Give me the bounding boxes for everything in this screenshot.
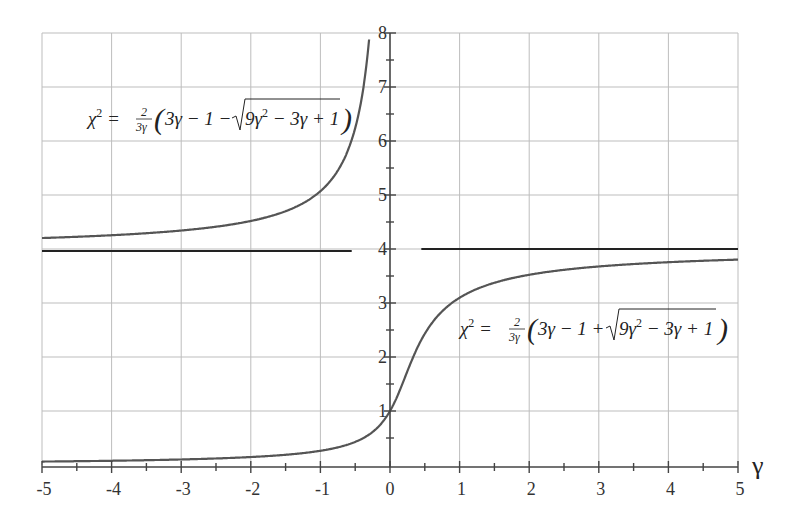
y-tick-label: 5: [378, 185, 387, 205]
svg-text:9γ2 − 3γ + 1: 9γ2 − 3γ + 1: [619, 316, 713, 339]
svg-text:χ2=: χ2=: [458, 316, 491, 339]
x-tick-label: -2: [245, 479, 260, 499]
chart-canvas: -5-4-3-2-1012345 12345678 γ χ2= 2 3γ ( 3…: [0, 0, 800, 525]
x-tick-label: -1: [315, 479, 330, 499]
y-tick-label: 4: [378, 239, 387, 259]
x-tick-label: -5: [37, 479, 52, 499]
x-tick-label: 2: [527, 479, 536, 499]
y-tick-labels: 12345678: [378, 23, 387, 421]
x-tick-label: 0: [386, 479, 395, 499]
x-tick-label: 1: [457, 479, 466, 499]
svg-text:2: 2: [514, 315, 520, 329]
svg-text:): ): [716, 312, 728, 346]
svg-text:3γ − 1 −: 3γ − 1 −: [164, 108, 231, 129]
svg-text:): ): [340, 102, 352, 136]
y-tick-label: 3: [378, 293, 387, 313]
y-tick-label: 8: [378, 23, 387, 43]
x-tick-labels: -5-4-3-2-1012345: [37, 479, 745, 499]
x-axis-label: γ: [751, 451, 764, 480]
x-tick-label: -3: [176, 479, 191, 499]
svg-text:9γ2 − 3γ + 1: 9γ2 − 3γ + 1: [245, 106, 339, 129]
svg-text:3γ − 1 +: 3γ − 1 +: [537, 318, 604, 339]
x-tick-label: -4: [106, 479, 121, 499]
svg-text:2: 2: [141, 105, 147, 119]
y-tick-label: 2: [378, 347, 387, 367]
formula-lower: χ2= 2 3γ ( 3γ − 1 + 9γ2 − 3γ + 1 ): [458, 309, 728, 346]
x-tick-label: 5: [736, 479, 745, 499]
y-tick-label: 7: [378, 77, 387, 97]
x-tick-label: 4: [666, 479, 675, 499]
y-tick-label: 6: [378, 131, 387, 151]
svg-text:χ2=: χ2=: [86, 106, 119, 129]
svg-text:3γ: 3γ: [135, 120, 147, 134]
y-tick-label: 1: [378, 401, 387, 421]
axes: [42, 33, 738, 473]
svg-text:3γ: 3γ: [508, 330, 520, 344]
formula-upper: χ2= 2 3γ ( 3γ − 1 − 9γ2 − 3γ + 1 ): [86, 99, 352, 136]
x-tick-label: 3: [596, 479, 605, 499]
